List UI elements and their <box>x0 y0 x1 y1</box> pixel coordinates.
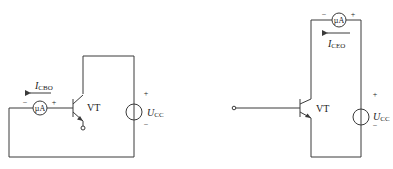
icbo-current-label: ICBO <box>34 80 53 92</box>
icbo-voltage-source-icon <box>126 104 142 120</box>
iceo-collector-wire <box>311 20 332 99</box>
iceo-source-plus: + <box>373 90 378 99</box>
icbo-microammeter: µA − + <box>23 98 57 115</box>
iceo-microammeter: µA − + <box>322 10 356 27</box>
iceo-source-label: UCC <box>373 111 390 123</box>
icbo-source-plus: + <box>144 89 149 98</box>
iceo-meter-minus: − <box>322 10 327 19</box>
iceo-circuit: µA − + ICEO VT + − UCC <box>232 10 390 157</box>
icbo-source-minus: − <box>144 120 149 129</box>
icbo-collector-wire <box>83 56 134 104</box>
iceo-current-label: ICEO <box>327 38 345 50</box>
iceo-meter-plus: + <box>351 10 356 19</box>
iceo-base-terminal <box>232 106 236 110</box>
icbo-circuit: µA − + ICBO VT + − UCC <box>9 56 164 157</box>
circuit-diagrams: µA − + ICBO VT + − UCC <box>0 0 393 169</box>
icbo-npn-transistor-icon <box>73 95 85 130</box>
iceo-meter-label: µA <box>334 16 345 25</box>
icbo-meter-label: µA <box>35 104 46 113</box>
iceo-return-wire <box>311 118 361 157</box>
icbo-return-wire <box>9 108 134 157</box>
iceo-source-minus: − <box>373 121 378 130</box>
iceo-transistor-label: VT <box>316 103 329 114</box>
icbo-emitter-terminal <box>81 126 85 130</box>
iceo-voltage-source-icon <box>353 109 369 125</box>
icbo-meter-minus: − <box>23 98 28 107</box>
icbo-meter-plus: + <box>52 98 57 107</box>
iceo-npn-transistor-icon <box>300 99 311 118</box>
icbo-transistor-label: VT <box>87 102 100 113</box>
icbo-source-label: UCC <box>147 107 164 119</box>
